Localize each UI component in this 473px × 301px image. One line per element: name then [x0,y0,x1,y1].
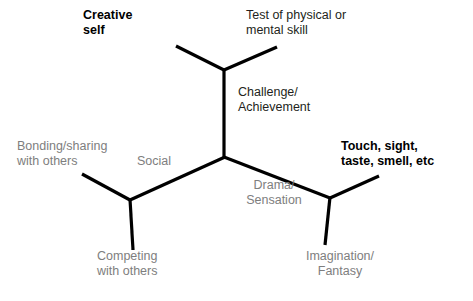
edge-right-arm [330,176,379,198]
edge-top-right-arm [224,47,277,70]
node-label-bonding-sharing: Bonding/sharing with others [17,139,107,169]
node-label-challenge-achievement: Challenge/ Achievement [238,85,310,115]
edge-left-stem [130,199,133,250]
diagram-canvas: Creative self Test of physical or mental… [0,0,473,301]
edge-left-arm [82,174,130,200]
node-label-competing-with-others: Competing with others [97,249,157,279]
node-label-senses: Touch, sight, taste, smell, etc [341,139,434,169]
edge-right-stem [325,197,330,245]
node-label-imagination-fantasy: Imagination/ Fantasy [295,249,385,279]
node-label-drama-sensation: Drama/ Sensation [234,178,314,208]
edge-top-left-arm [176,46,224,70]
node-label-test-of-skill: Test of physical or mental skill [246,8,346,38]
node-label-social: Social [137,154,171,169]
node-label-creative-self: Creative self [83,8,132,38]
